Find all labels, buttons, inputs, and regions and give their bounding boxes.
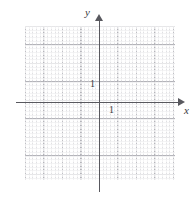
y-axis-arrow-icon [95, 14, 103, 21]
coordinate-grid-figure: y x 1 1 [0, 0, 196, 208]
x-axis-label: x [184, 105, 189, 116]
grid-background [25, 26, 175, 180]
y-axis-unit-tick-label: 1 [90, 79, 95, 89]
y-axis-label: y [85, 7, 90, 18]
x-axis-unit-tick-label: 1 [109, 105, 114, 115]
y-axis-line [99, 16, 100, 192]
